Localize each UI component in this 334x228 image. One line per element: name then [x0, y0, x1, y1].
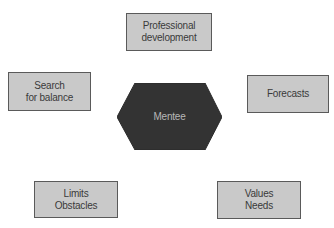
node-professional-development: Professional development: [126, 13, 212, 51]
node-label-line: Forecasts: [267, 88, 309, 100]
node-values-needs: Values Needs: [217, 181, 301, 219]
center-node-label: Mentee: [117, 83, 222, 150]
node-search-for-balance: Search for balance: [8, 72, 91, 111]
node-label-line: Needs: [245, 200, 274, 212]
node-limits-obstacles: Limits Obstacles: [34, 181, 118, 218]
center-node-mentee: Mentee: [117, 83, 222, 150]
node-label-line: Search: [26, 80, 73, 92]
node-forecasts: Forecasts: [247, 75, 329, 113]
node-label-line: Obstacles: [55, 200, 98, 212]
node-label-line: for balance: [26, 92, 73, 104]
node-label-line: Professional: [141, 20, 196, 32]
node-label-line: Values: [245, 188, 274, 200]
node-label-line: development: [141, 32, 196, 44]
node-label-line: Limits: [55, 188, 98, 200]
